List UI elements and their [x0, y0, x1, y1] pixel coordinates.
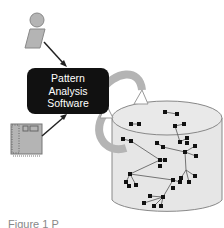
box-line-3: Software	[27, 97, 109, 110]
circuit-board-icon	[11, 124, 42, 156]
diagram-canvas	[0, 0, 224, 228]
person-icon	[25, 13, 45, 48]
database-cylinder	[112, 101, 222, 211]
figure-caption: Figure 1 P	[8, 218, 59, 228]
box-line-1: Pattern	[27, 72, 109, 85]
arrow-person-to-box	[44, 42, 67, 67]
box-line-2: Analysis	[27, 85, 109, 98]
arrow-board-to-box	[42, 114, 67, 136]
pattern-analysis-box: Pattern Analysis Software	[27, 68, 109, 114]
